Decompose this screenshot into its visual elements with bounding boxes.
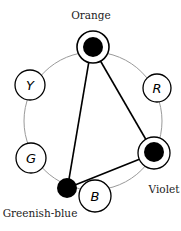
color-circle-ring	[24, 52, 162, 190]
line-orange-violet	[97, 55, 152, 150]
node-violet	[138, 137, 170, 169]
color-wheel-diagram: R Y G B Orange Violet Greenish-blue	[0, 0, 181, 231]
node-b-letter: B	[91, 189, 100, 204]
line-orange-greenishblue	[68, 55, 90, 185]
label-greenish-blue: Greenish-blue	[3, 207, 78, 219]
node-g: G	[16, 143, 46, 173]
node-r-letter: R	[152, 81, 161, 96]
label-violet: Violet	[148, 183, 181, 195]
node-b: B	[79, 180, 111, 212]
node-y-letter: Y	[26, 78, 35, 93]
label-orange: Orange	[71, 9, 111, 21]
line-greenishblue-violet	[70, 155, 150, 187]
diagram-canvas: R Y G B Orange Violet Greenish-blue	[0, 0, 181, 231]
node-g-letter: G	[26, 151, 36, 166]
node-y: Y	[15, 70, 45, 100]
node-r: R	[143, 74, 171, 102]
node-greenish-blue	[57, 178, 77, 198]
node-orange	[77, 31, 109, 63]
